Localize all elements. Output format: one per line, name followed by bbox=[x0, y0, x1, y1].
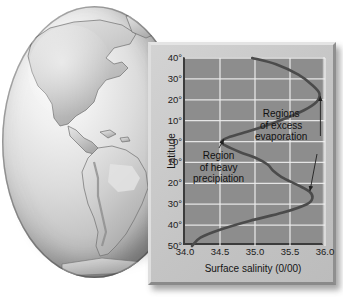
annotation-line: precipiation bbox=[193, 173, 244, 185]
annotation-line: of excess bbox=[255, 120, 307, 132]
y-tick-label: 20° bbox=[168, 95, 182, 105]
y-tick-label: 30° bbox=[168, 199, 182, 209]
annotation-line: of heavy bbox=[193, 162, 244, 174]
plot-area: 40°30°20°10°0°10°20°30°40°50° 34.034.535… bbox=[183, 57, 323, 245]
y-tick-label: 30° bbox=[168, 74, 182, 84]
x-tick-label: 36.0 bbox=[316, 247, 335, 257]
annotation-regions-of-excess-evaporation: Regionsof excessevaporation bbox=[255, 108, 307, 143]
x-tick-label: 34.0 bbox=[176, 247, 195, 257]
chart-panel: Latitude Surface salinity (0/00) 40°30°2… bbox=[148, 42, 336, 285]
annotation-line: Regions bbox=[255, 108, 307, 120]
annotation-line: evaporation bbox=[255, 131, 307, 143]
x-axis-title: Surface salinity (0/00) bbox=[183, 263, 323, 274]
y-tick-label: 40° bbox=[168, 53, 182, 63]
y-tick-label: 0° bbox=[173, 137, 182, 147]
y-tick-label: 20° bbox=[168, 179, 182, 189]
y-tick-label: 10° bbox=[168, 158, 182, 168]
annotation-region-of-heavy-precipitation: Regionof heavyprecipiation bbox=[193, 150, 244, 185]
chart-panel-face: Latitude Surface salinity (0/00) 40°30°2… bbox=[151, 45, 333, 282]
annotation-line: Region bbox=[193, 150, 244, 162]
x-tick-label: 35.0 bbox=[246, 247, 265, 257]
y-tick-label: 10° bbox=[168, 116, 182, 126]
x-tick-label: 35.5 bbox=[281, 247, 300, 257]
y-tick-label: 40° bbox=[168, 220, 182, 230]
x-tick-label: 34.5 bbox=[211, 247, 230, 257]
figure-canvas: Latitude Surface salinity (0/00) 40°30°2… bbox=[0, 0, 343, 299]
